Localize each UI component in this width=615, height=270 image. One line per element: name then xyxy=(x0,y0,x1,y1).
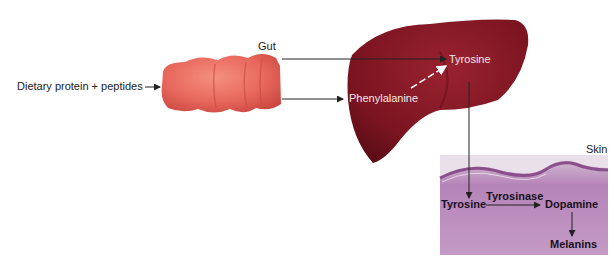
label-skin: Skin xyxy=(586,143,607,155)
label-melanins: Melanins xyxy=(550,238,597,250)
label-dietary-protein: Dietary protein + peptides xyxy=(17,80,143,92)
gut-illustration xyxy=(162,54,281,113)
label-tyrosine-liver: Tyrosine xyxy=(449,53,491,65)
label-dopamine: Dopamine xyxy=(545,198,598,210)
label-phenylalanine: Phenylalanine xyxy=(349,92,418,104)
diagram-graphics xyxy=(0,0,615,270)
label-tyrosine-skin: Tyrosine xyxy=(441,198,486,210)
label-tyrosinase: Tyrosinase xyxy=(486,190,543,202)
label-gut: Gut xyxy=(258,40,276,52)
